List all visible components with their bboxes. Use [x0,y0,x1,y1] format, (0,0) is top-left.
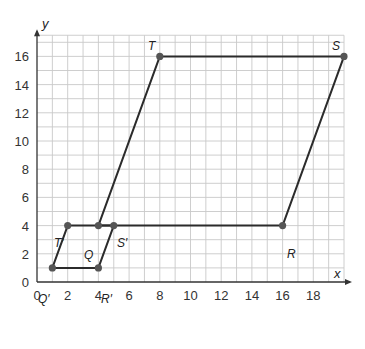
vertex-point [64,222,71,229]
y-axis-label: y [41,16,50,31]
y-tick-label: 8 [22,162,29,177]
y-tick-label: 6 [22,190,29,205]
x-axis-label: x [333,266,341,281]
x-tick-label: 6 [125,288,132,303]
vertex-points [49,53,348,272]
vertex-point [110,222,117,229]
y-tick-label: 16 [15,49,29,64]
point-label-R: R [287,247,296,261]
x-tick-label: 14 [245,288,259,303]
x-tick-label: 18 [306,288,320,303]
x-tick-label: 8 [156,288,163,303]
x-axis-arrow-icon [345,279,352,285]
point-label-R-prime: R′ [101,292,113,306]
x-tick-label: 12 [214,288,228,303]
point-label-T: T [148,39,157,53]
y-tick-label: 0 [22,275,29,290]
point-label-S: S [332,39,340,53]
x-tick-label: 16 [275,288,289,303]
coordinate-plane-chart: 0246810121416180246810121416 x y T S R Q… [0,0,365,349]
vertex-point [340,53,347,60]
x-tick-label: 2 [64,288,71,303]
point-label-Q-prime: Q′ [38,292,50,306]
point-label-Q: Q [84,248,93,262]
point-label-S-prime: S′ [117,236,128,250]
grid-lines [37,35,344,282]
vertex-point [156,53,163,60]
x-tick-label: 10 [183,288,197,303]
y-tick-label: 4 [22,219,29,234]
vertex-point [279,222,286,229]
y-tick-label: 2 [22,247,29,262]
parallelograms [52,56,344,268]
axes [34,29,352,285]
y-tick-label: 12 [15,106,29,121]
y-axis-arrow-icon [34,29,40,36]
y-tick-label: 14 [15,78,29,93]
vertex-point [49,264,56,271]
y-tick-label: 10 [15,134,29,149]
vertex-point [95,264,102,271]
vertex-point [95,222,102,229]
point-label-T-prime: T′ [54,236,64,250]
tick-labels: 0246810121416180246810121416 [15,49,321,303]
